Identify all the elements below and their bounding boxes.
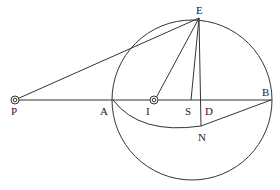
label-B: B [262, 86, 269, 98]
geometry-diagram: P A I S D B E N [0, 0, 280, 190]
point-I-marker [150, 96, 158, 104]
line-EN [199, 18, 201, 126]
label-A: A [100, 105, 108, 117]
label-I: I [146, 105, 150, 117]
label-D: D [205, 105, 213, 117]
label-N: N [198, 131, 206, 143]
point-P-marker [11, 96, 19, 104]
label-P: P [11, 105, 17, 117]
line-EP [17, 18, 199, 99]
label-E: E [196, 4, 203, 16]
label-S: S [185, 105, 191, 117]
